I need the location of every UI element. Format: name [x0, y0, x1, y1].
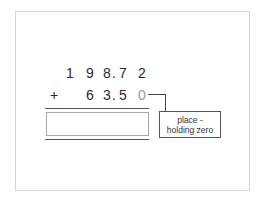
leader-line-vertical: [165, 94, 166, 111]
row1-digit-hundreds: 1: [66, 66, 74, 80]
answer-box[interactable]: [46, 112, 149, 136]
row2-digit-tens: 6: [86, 88, 94, 102]
row2-decimal-point: .: [112, 88, 116, 102]
row2-digit-tenths: 5: [119, 88, 127, 102]
row1-decimal-point: .: [112, 66, 116, 80]
label-line-1: place -: [160, 115, 220, 125]
placeholder-zero-label: place - holding zero: [159, 111, 221, 138]
label-line-2: holding zero: [160, 125, 220, 135]
plus-operator: +: [50, 88, 58, 102]
row1-digit-hundredths: 2: [138, 66, 146, 80]
sum-rule-top: [45, 108, 149, 109]
row2-digit-ones: 3: [103, 88, 111, 102]
row1-digit-tens: 9: [86, 66, 94, 80]
sum-rule-bottom: [45, 139, 149, 140]
placeholder-zero: 0: [138, 88, 146, 102]
leader-line-horizontal: [148, 94, 165, 95]
row1-digit-tenths: 7: [119, 66, 127, 80]
row1-digit-ones: 8: [103, 66, 111, 80]
